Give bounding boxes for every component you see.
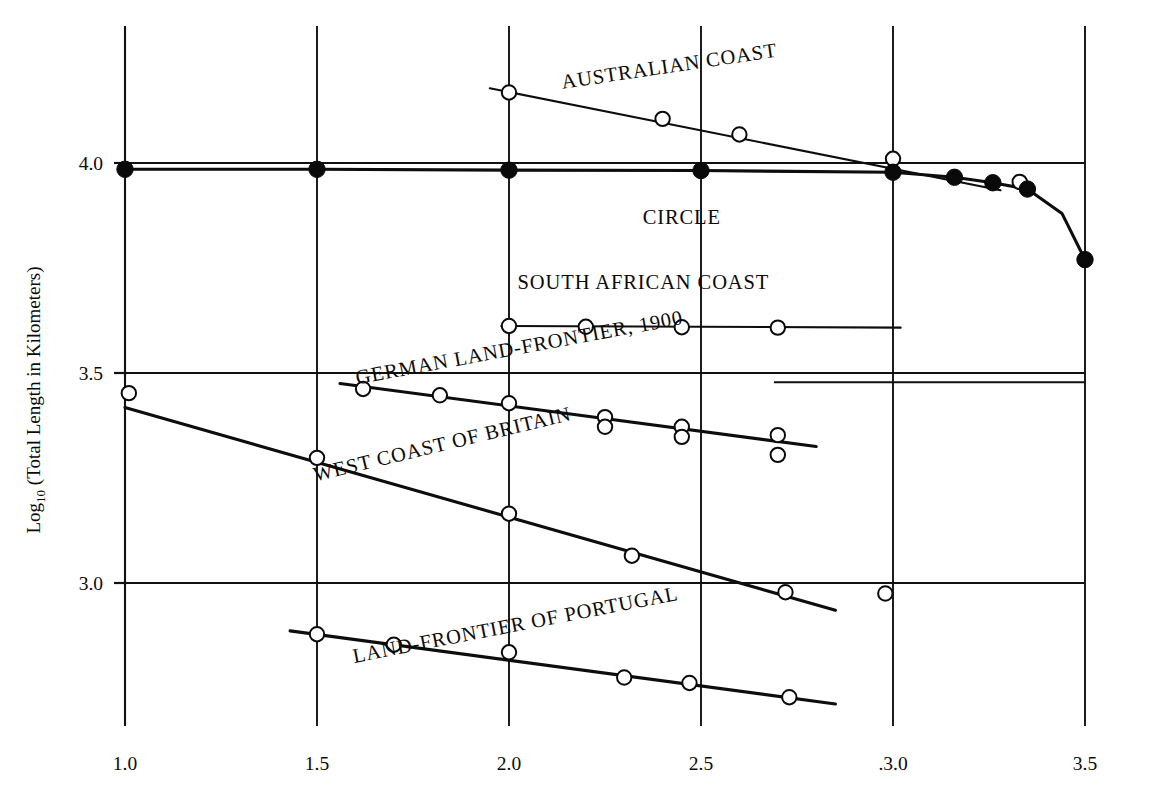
- data-point-circle: [117, 161, 133, 177]
- data-point-south-african-coast: [502, 319, 516, 333]
- series-label-south-african-coast: SOUTH AFRICAN COAST: [518, 271, 770, 293]
- data-point-german-land-frontier-1900: [433, 388, 447, 402]
- data-point-circle: [1019, 181, 1035, 197]
- data-point-circle: [693, 162, 709, 178]
- data-point-circle: [309, 161, 325, 177]
- x-tick-label: .3.0: [878, 753, 907, 774]
- data-point-west-coast-of-britain: [122, 386, 136, 400]
- data-point-circle: [1077, 251, 1093, 267]
- chart-canvas: 1.01.52.02.5.3.03.5 4.03.53.0 AUSTRALIAN…: [0, 0, 1163, 812]
- x-axis-tick-labels: 1.01.52.02.5.3.03.5: [113, 753, 1097, 774]
- data-point-german-land-frontier-1900: [771, 448, 785, 462]
- data-point-land-frontier-of-portugal: [502, 645, 516, 659]
- data-point-land-frontier-of-portugal: [617, 670, 631, 684]
- x-tick-label: 3.5: [1073, 753, 1097, 774]
- y-axis-title-log: Log: [23, 502, 44, 533]
- data-point-west-coast-of-britain: [625, 549, 639, 563]
- y-axis-title-subscript: 10: [33, 490, 48, 503]
- data-point-south-african-coast: [771, 320, 785, 334]
- gridlines: [114, 26, 1085, 726]
- data-point-land-frontier-of-portugal: [682, 676, 696, 690]
- series-label-german-land-frontier-1900: GERMAN LAND-FRONTIER, 1900: [354, 306, 685, 388]
- series-label-circle: CIRCLE: [643, 206, 721, 228]
- x-tick-label: 2.5: [689, 753, 713, 774]
- data-point-german-land-frontier-1900: [502, 396, 516, 410]
- x-tick-label: 2.0: [497, 753, 521, 774]
- data-point-german-land-frontier-1900: [675, 430, 689, 444]
- data-point-circle: [885, 164, 901, 180]
- x-tick-label: 1.5: [305, 753, 329, 774]
- series-label-west-coast-of-britain: WEST COAST OF BRITAIN: [311, 402, 573, 485]
- richardson-coastline-figure: 1.01.52.02.5.3.03.5 4.03.53.0 AUSTRALIAN…: [0, 0, 1163, 812]
- data-point-german-land-frontier-1900: [598, 420, 612, 434]
- x-tick-label: 1.0: [113, 753, 137, 774]
- data-point-west-coast-of-britain: [502, 507, 516, 521]
- series-label-australian-coast: AUSTRALIAN COAST: [560, 39, 779, 93]
- data-point-west-coast-of-britain: [778, 585, 792, 599]
- trend-line-german-land-frontier-1900: [340, 384, 816, 447]
- data-point-australian-coast: [655, 112, 669, 126]
- data-point-land-frontier-of-portugal: [782, 690, 796, 704]
- y-tick-label: 3.5: [79, 363, 103, 384]
- y-axis-title-text: Log10 (Total Length in Kilometers): [23, 266, 48, 533]
- y-axis-tick-labels: 4.03.53.0: [79, 153, 103, 594]
- data-point-circle: [985, 175, 1001, 191]
- data-point-german-land-frontier-1900: [771, 428, 785, 442]
- y-tick-label: 3.0: [79, 573, 103, 594]
- trend-line-circle: [125, 169, 1085, 259]
- data-point-australian-coast: [732, 127, 746, 141]
- data-point-west-coast-of-britain: [878, 586, 892, 600]
- y-axis-title-rest: (Total Length in Kilometers): [23, 266, 45, 489]
- y-tick-label: 4.0: [79, 153, 103, 174]
- data-point-australian-coast: [502, 85, 516, 99]
- data-point-land-frontier-of-portugal: [310, 627, 324, 641]
- data-point-circle: [501, 162, 517, 178]
- data-point-circle: [946, 169, 962, 185]
- y-axis-title: Log10 (Total Length in Kilometers): [23, 266, 48, 533]
